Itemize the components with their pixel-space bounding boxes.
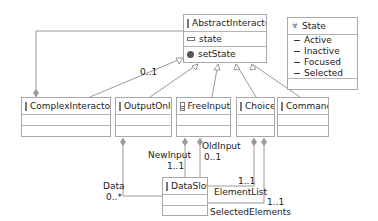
literals-compartment: Active Inactive Focused Selected — [288, 35, 357, 79]
attributes-compartment — [177, 115, 230, 126]
attributes-compartment — [163, 195, 207, 206]
class-name: AbstractInteractor — [192, 16, 266, 31]
literal-active: Active — [304, 35, 332, 46]
class-choice[interactable]: Choice — [236, 97, 275, 137]
literal-icon — [294, 51, 300, 52]
attributes-compartment — [237, 115, 274, 126]
class-icon — [119, 102, 121, 111]
old-input-multiplicity-label: 0..1 — [204, 152, 221, 162]
attributes-compartment — [116, 115, 171, 126]
literal-focused: Focused — [304, 57, 341, 68]
class-icon — [180, 102, 185, 111]
class-data-slot[interactable]: DataSlot — [162, 177, 208, 216]
class-name: ComplexInteractor — [30, 99, 110, 114]
class-free-input[interactable]: FreeInput — [176, 97, 231, 137]
attributes-compartment — [22, 115, 110, 126]
operation-icon — [187, 51, 194, 58]
class-complex-interactor[interactable]: ComplexInteractor — [21, 97, 111, 137]
enum-name: State — [302, 19, 326, 34]
data-multiplicity-label: 0..* — [106, 192, 122, 202]
class-output-only[interactable]: OutputOnly — [115, 97, 172, 137]
element-list-multiplicity-label: 1..1 — [238, 176, 255, 186]
attributes-compartment: state — [184, 32, 266, 47]
field-icon — [187, 37, 195, 41]
literal-icon — [294, 40, 300, 41]
enumeration-icon: ☣ — [291, 22, 299, 30]
class-name: FreeInput — [188, 99, 230, 114]
complex-multiplicity-label: 0..1 — [140, 67, 157, 77]
class-icon — [187, 19, 189, 28]
attributes-compartment — [278, 115, 328, 126]
enum-state[interactable]: ☣State Active Inactive Focused Selected — [287, 17, 358, 90]
class-name: DataSlot — [171, 179, 207, 194]
class-icon — [240, 102, 242, 111]
class-command[interactable]: Command — [277, 97, 329, 137]
class-name: OutputOnly — [124, 99, 171, 114]
class-name: Choice — [245, 99, 274, 114]
literal-icon — [294, 73, 300, 74]
old-input-role-label: OldInput — [202, 141, 241, 151]
class-icon — [281, 102, 283, 111]
class-abstract-interactor[interactable]: AbstractInteractor state setState — [183, 14, 267, 63]
class-name: Command — [286, 99, 328, 114]
new-input-role-label: NewInput — [148, 150, 191, 160]
literal-selected: Selected — [304, 68, 343, 79]
selected-elements-role-label: SelectedElements — [210, 207, 291, 217]
literal-icon — [294, 62, 300, 63]
selected-elements-multiplicity-label: 1..1 — [267, 197, 284, 207]
literal-inactive: Inactive — [304, 46, 340, 57]
class-icon — [166, 182, 168, 191]
class-icon — [25, 102, 27, 111]
attribute-state: state — [199, 32, 222, 46]
data-role-label: Data — [103, 181, 125, 191]
new-input-multiplicity-label: 1..1 — [167, 161, 184, 171]
operation-setstate: setState — [198, 47, 236, 61]
operations-compartment: setState — [184, 47, 266, 61]
element-list-role-label: ElementList — [214, 187, 267, 197]
